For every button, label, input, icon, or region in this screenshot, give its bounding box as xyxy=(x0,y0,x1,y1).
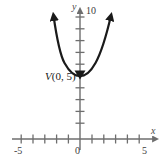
parabola-left-branch xyxy=(54,16,81,77)
x-axis-label: x xyxy=(151,126,155,136)
vertex-coords: (0, 5) xyxy=(52,70,76,82)
vertex-letter: V xyxy=(45,70,52,82)
y-axis-label: y xyxy=(72,2,76,12)
y-tick-label-10: 10 xyxy=(86,6,96,16)
vertex-annotation: V(0, 5) xyxy=(45,71,76,82)
x-tick-label-0: 0 xyxy=(75,146,80,156)
coordinate-plane-svg xyxy=(0,0,164,161)
parabola-right-branch xyxy=(80,16,111,77)
parabola-graph-figure: y x 10 0 -5 5 V(0, 5) xyxy=(0,0,164,161)
x-tick-label-neg5: -5 xyxy=(14,146,22,156)
x-tick-label-5: 5 xyxy=(142,146,147,156)
